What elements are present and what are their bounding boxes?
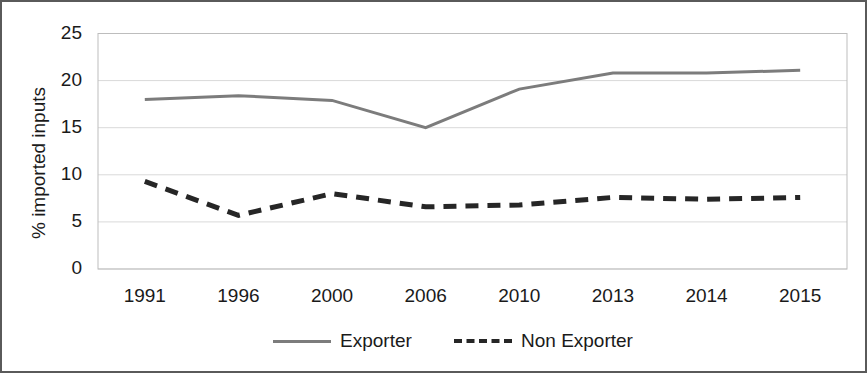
chart-plot-canvas <box>2 2 867 373</box>
legend-swatch-dashed-line-icon <box>454 339 512 343</box>
x-category-label: 1996 <box>188 285 288 307</box>
x-category-label: 2000 <box>282 285 382 307</box>
x-category-label: 1991 <box>95 285 195 307</box>
x-category-label: 2010 <box>469 285 569 307</box>
gridlines-group <box>98 34 847 270</box>
series-line-exporter <box>145 70 800 127</box>
legend-entry-non-exporter[interactable]: Non Exporter <box>454 330 633 352</box>
x-category-label: 2014 <box>657 285 757 307</box>
y-axis-title: % imported inputs <box>28 63 50 263</box>
x-category-label: 2013 <box>563 285 663 307</box>
legend-entry-exporter[interactable]: Exporter <box>273 330 412 352</box>
series-line-non-exporter <box>145 181 800 215</box>
legend-label: Exporter <box>340 330 412 352</box>
x-category-label: 2015 <box>750 285 850 307</box>
x-category-label: 2006 <box>376 285 476 307</box>
y-tick-label: 25 <box>32 22 82 44</box>
legend-swatch-solid-line-icon <box>273 340 331 343</box>
data-series-group <box>145 70 800 215</box>
legend-label: Non Exporter <box>521 330 633 352</box>
plot-area-border <box>98 34 847 270</box>
chart-figure: 0510152025 19911996200020062010201320142… <box>0 0 867 373</box>
plot-frame <box>98 34 847 270</box>
